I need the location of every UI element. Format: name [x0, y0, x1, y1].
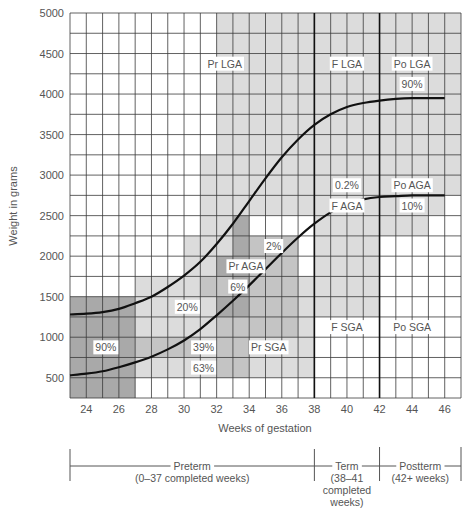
- y-tick-label: 1500: [40, 291, 64, 303]
- y-tick-label: 3500: [40, 129, 64, 141]
- region-label: 39%: [193, 341, 214, 353]
- y-tick-label: 4000: [40, 88, 64, 100]
- shaded-cell-light: [380, 216, 429, 236]
- region-label: F SGA: [331, 321, 363, 333]
- term-segment-label: Term: [335, 460, 359, 472]
- region-label: Po LGA: [394, 58, 431, 70]
- y-tick-label: 4500: [40, 48, 64, 60]
- region-label: Pr AGA: [228, 260, 263, 272]
- x-tick-label: 24: [80, 403, 92, 415]
- term-segment-sublabel: (0–37 completed weeks): [135, 472, 249, 484]
- region-label: 90%: [95, 341, 116, 353]
- term-segment-sublabel: (42+ weeks): [392, 472, 449, 484]
- region-label: 63%: [193, 362, 214, 374]
- y-tick-label: 2000: [40, 250, 64, 262]
- y-tick-label: 2500: [40, 210, 64, 222]
- region-label: 2%: [266, 240, 281, 252]
- x-tick-label: 34: [243, 403, 255, 415]
- region-label: Po SGA: [393, 321, 431, 333]
- x-tick-label: 44: [406, 403, 418, 415]
- region-label: Po AGA: [393, 179, 430, 191]
- region-label: 0.2%: [335, 179, 359, 191]
- x-tick-label: 38: [308, 403, 320, 415]
- region-label: F AGA: [331, 200, 362, 212]
- term-segment-label: Preterm: [174, 460, 212, 472]
- x-axis-title: Weeks of gestation: [218, 422, 311, 434]
- x-tick-label: 40: [341, 403, 353, 415]
- region-label: 6%: [230, 281, 245, 293]
- x-tick-label: 30: [178, 403, 190, 415]
- region-label: F LGA: [332, 58, 362, 70]
- x-tick-label: 26: [113, 403, 125, 415]
- x-tick-label: 28: [145, 403, 157, 415]
- region-label: 90%: [402, 78, 423, 90]
- y-tick-label: 3000: [40, 169, 64, 181]
- x-axis-ticks: 242628303234363840424446: [80, 403, 451, 415]
- region-label: Pr LGA: [208, 58, 242, 70]
- y-axis-title: Weight in grams: [7, 166, 19, 246]
- y-axis-ticks: 500100015002000250030003500400045005000: [40, 7, 64, 384]
- term-segment-sublabel: completed: [323, 484, 372, 496]
- term-segment-sublabel: weeks): [329, 496, 363, 508]
- region-label: 20%: [177, 301, 198, 313]
- term-segment-sublabel: (38–41: [331, 472, 364, 484]
- region-label: Pr SGA: [251, 341, 287, 353]
- x-tick-label: 46: [439, 403, 451, 415]
- region-label: 10%: [402, 200, 423, 212]
- x-tick-label: 36: [276, 403, 288, 415]
- shaded-cell-light: [217, 13, 461, 195]
- term-segment-label: Postterm: [399, 460, 441, 472]
- x-tick-label: 32: [211, 403, 223, 415]
- term-classification-bar: Preterm(0–37 completed weeks)Term(38–41c…: [70, 447, 461, 508]
- y-tick-label: 5000: [40, 7, 64, 19]
- x-tick-label: 42: [373, 403, 385, 415]
- y-tick-label: 500: [46, 372, 64, 384]
- growth-chart: Pr LGAF LGAPo LGA90%0.2%F AGAPo AGA10%2%…: [0, 0, 474, 519]
- y-tick-label: 1000: [40, 331, 64, 343]
